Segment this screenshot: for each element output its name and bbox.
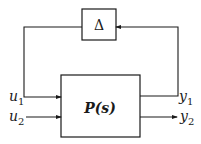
- u2-label: u2: [9, 108, 24, 127]
- u1-feedback-line: [24, 27, 82, 97]
- block-diagram: Δ P(s) u1 u2 y1 y2: [0, 0, 201, 144]
- y2-label: y2: [179, 108, 194, 127]
- plant-label: P(s): [83, 100, 116, 116]
- delta-label: Δ: [94, 17, 104, 33]
- y1-label: y1: [178, 88, 193, 107]
- plant-block: P(s): [61, 75, 140, 137]
- u1-label: u1: [9, 88, 24, 107]
- y1-feedback-line: [116, 27, 178, 96]
- delta-block: Δ: [82, 9, 116, 40]
